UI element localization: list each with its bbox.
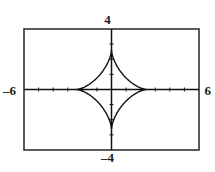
plot-area — [0, 0, 215, 172]
graphing-calculator-viewport: 4 –4 –6 6 — [0, 0, 215, 172]
